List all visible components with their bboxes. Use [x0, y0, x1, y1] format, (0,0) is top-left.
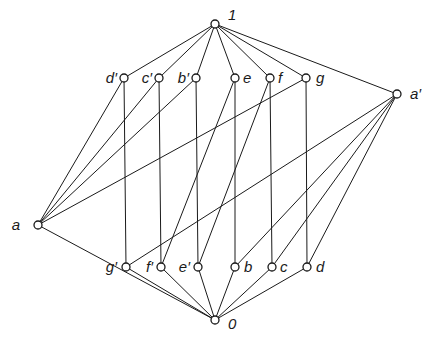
edge-g-d [306, 78, 307, 267]
node-1 [211, 20, 219, 28]
label-c-prime: c′ [142, 69, 154, 86]
edge-f-e-prime [198, 78, 270, 267]
node-f-prime [157, 263, 165, 271]
label-d: d [316, 258, 325, 275]
edge-a-prime-d [307, 94, 397, 267]
label-g-prime: g′ [106, 258, 118, 275]
node-b [231, 263, 239, 271]
edge-a-prime-g-prime [126, 94, 397, 267]
edge-a-prime-c [272, 94, 397, 267]
edge-1-e [215, 24, 235, 78]
label-a: a [12, 216, 20, 233]
node-0 [211, 316, 219, 324]
edge-c-prime-f-prime [159, 78, 161, 267]
label-0: 0 [228, 315, 237, 332]
edge-a-c-prime [38, 78, 159, 225]
edge-f-c [270, 78, 272, 267]
label-f: f [278, 69, 284, 86]
node-d [303, 263, 311, 271]
label-g: g [316, 69, 325, 86]
edge-0-d [215, 267, 307, 320]
node-e [231, 74, 239, 82]
node-c-prime [155, 74, 163, 82]
edge-0-b [215, 267, 235, 320]
node-g-prime [122, 263, 130, 271]
node-b-prime [192, 74, 200, 82]
label-1: 1 [228, 6, 236, 23]
label-d-prime: d′ [106, 69, 118, 86]
node-e-prime [194, 263, 202, 271]
lattice-diagram: 1d′c′b′efga′ag′f′e′bcd0 [0, 0, 437, 354]
edge-d-prime-g-prime [124, 78, 126, 267]
node-d-prime [120, 74, 128, 82]
edge-1-b-prime [196, 24, 215, 78]
node-c [268, 263, 276, 271]
label-a-prime: a′ [410, 85, 422, 102]
label-b-prime: b′ [178, 69, 190, 86]
edge-1-d-prime [124, 24, 215, 78]
edge-1-g [215, 24, 306, 78]
label-f-prime: f′ [146, 258, 154, 275]
edge-a-prime-b [235, 94, 397, 267]
edge-a-d-prime [38, 78, 124, 225]
labels-layer: 1d′c′b′efga′ag′f′e′bcd0 [12, 6, 423, 332]
node-a-prime [393, 90, 401, 98]
edge-0-g-prime [126, 267, 215, 320]
node-a [34, 221, 42, 229]
node-g [302, 74, 310, 82]
edges-layer [38, 24, 397, 320]
nodes-layer [34, 20, 401, 324]
node-f [266, 74, 274, 82]
label-b: b [244, 258, 252, 275]
label-e-prime: e′ [179, 258, 191, 275]
label-e: e [243, 69, 251, 86]
label-c: c [280, 258, 288, 275]
